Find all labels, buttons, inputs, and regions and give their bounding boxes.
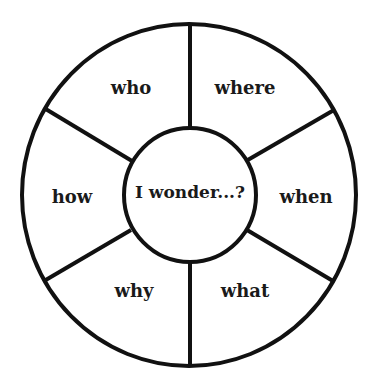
question-wheel-diagram: who where when what why how I wonder...?: [0, 0, 370, 380]
segment-label-where: where: [214, 77, 276, 98]
segment-label-how: how: [52, 186, 93, 207]
segment-label-what: what: [220, 280, 270, 301]
segment-label-why: why: [113, 280, 154, 301]
center-label: I wonder...?: [135, 182, 245, 202]
segment-label-when: when: [278, 186, 332, 207]
segment-label-who: who: [110, 77, 152, 98]
